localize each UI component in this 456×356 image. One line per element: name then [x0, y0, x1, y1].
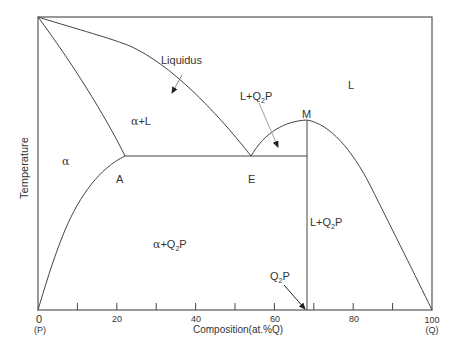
- region-l-plus-q2p-top-a: L+Q: [240, 90, 262, 102]
- compound-q2p-label: Q2P: [270, 270, 290, 284]
- region-alpha-plus-l-rest: +L: [138, 115, 151, 127]
- phase-diagram: Temperature 0 (P) 20 40 60 80 100 (Q) Co…: [0, 0, 456, 356]
- liquidus-curve-left: [38, 17, 251, 156]
- region-l-plus-q2p-right-c: P: [335, 216, 342, 228]
- x-tick-100: 100: [424, 315, 439, 325]
- x-axis-label: Composition(at.%Q): [193, 324, 283, 335]
- liquidus-curve-compound-left: [251, 120, 307, 156]
- solidus-curve: [38, 17, 125, 156]
- plot-frame: [38, 17, 432, 310]
- point-a-label: A: [116, 173, 124, 185]
- region-l-plus-q2p-top-c: P: [265, 90, 272, 102]
- x-tick-40: 40: [191, 314, 201, 324]
- x-tick-0: 0: [36, 313, 42, 325]
- region-liquid: L: [348, 79, 354, 91]
- region-alpha-plus-q2p-q: +Q: [160, 238, 175, 250]
- region-alpha: α: [62, 155, 70, 168]
- x-tick-20: 20: [112, 314, 122, 324]
- region-l-plus-q2p-right-a: L+Q: [310, 216, 332, 228]
- region-l-plus-q2p-top: L+Q2P: [240, 90, 272, 104]
- compound-q2p-c: P: [282, 270, 289, 282]
- liquidus-label: Liquidus: [161, 54, 202, 66]
- point-e-label: E: [248, 173, 255, 185]
- x-tick-endP: (P): [34, 325, 46, 335]
- region-alpha-plus-l: α+L: [131, 115, 151, 128]
- q2p-arrow: [284, 285, 305, 309]
- x-tick-60: 60: [270, 314, 280, 324]
- y-axis-label: Temperature: [18, 137, 30, 199]
- point-m-label: M: [302, 108, 311, 120]
- region-alpha-plus-q2p-p: P: [179, 238, 186, 250]
- x-axis-ticks: [77, 303, 392, 310]
- x-tick-endQ: (Q): [426, 325, 439, 335]
- liquidus-curve-right: [307, 120, 432, 310]
- solvus-curve: [38, 156, 125, 310]
- region-alpha-plus-q2p: α+Q2P: [153, 238, 187, 252]
- region-l-plus-q2p-right: L+Q2P: [310, 216, 342, 230]
- x-tick-80: 80: [349, 314, 359, 324]
